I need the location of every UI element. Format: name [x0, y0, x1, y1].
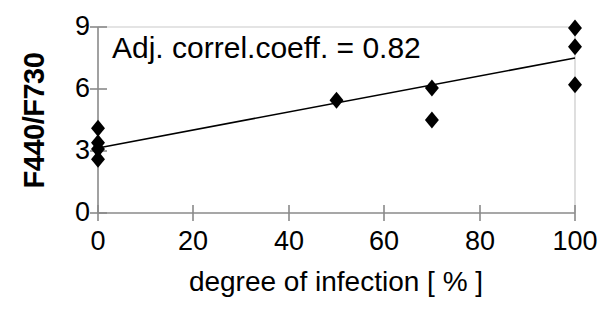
- x-axis-title: degree of infection [ % ]: [96, 266, 576, 298]
- x-tick-label-0: 0: [63, 228, 133, 255]
- x-tick-label-100: 100: [540, 228, 610, 255]
- x-tick-label-20: 20: [158, 228, 228, 255]
- correlation-annotation: Adj. correl.coeff. = 0.82: [112, 31, 421, 65]
- x-tick-label-40: 40: [254, 228, 324, 255]
- x-tick-label-80: 80: [445, 228, 515, 255]
- x-tick-label-60: 60: [349, 228, 419, 255]
- scatter-chart-figure: F440/F730: [0, 0, 612, 321]
